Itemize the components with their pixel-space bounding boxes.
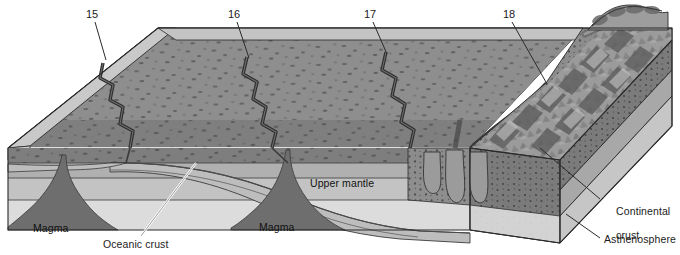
figure-canvas: 15 16 17 18 Upper mantle Magma Magma Oce… [0,0,680,255]
block-diagram-svg [0,0,680,255]
label-magma-left: Magma [33,222,69,234]
callout-number-17: 17 [364,8,376,20]
callout-number-18: 18 [503,8,515,20]
label-magma-right: Magma [259,221,295,233]
label-oceanic-crust: Oceanic crust [103,238,169,250]
callout-number-15: 15 [86,8,98,20]
leader-15 [95,22,106,60]
mountain-crest-skyline [588,4,668,30]
oceanic-crust-band [8,148,470,163]
label-asthenosphere: Asthenosphere [604,233,676,245]
label-upper-mantle: Upper mantle [310,177,374,189]
callout-number-16: 16 [228,8,240,20]
label-continental-crust-line1: Continental [616,205,670,217]
